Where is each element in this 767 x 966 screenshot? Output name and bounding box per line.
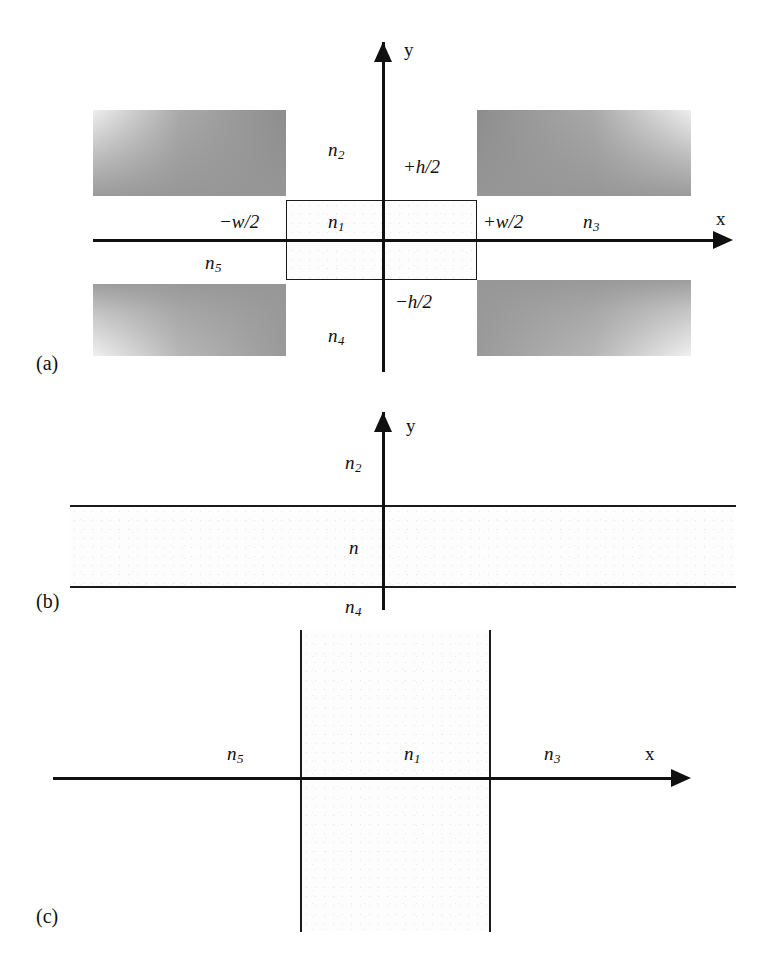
waveguide-core-region-b bbox=[70, 507, 735, 587]
label-n3-a-base: n bbox=[583, 211, 593, 232]
label-n-b: n bbox=[349, 538, 359, 557]
label-n3-a: n3 bbox=[583, 212, 599, 234]
label-plus-w-over-2: +w/2 bbox=[483, 212, 523, 231]
label-n2-b: n2 bbox=[345, 453, 361, 475]
panel-tag-c: (c) bbox=[36, 905, 58, 928]
label-n2-a: n2 bbox=[328, 140, 344, 162]
label-n1-c-base: n bbox=[404, 743, 414, 764]
label-n4-b-base: n bbox=[345, 596, 355, 617]
y-axis-line-b bbox=[382, 412, 385, 610]
label-n3-c: n3 bbox=[544, 744, 560, 766]
y-axis-arrowhead-b bbox=[374, 412, 392, 432]
y-axis-line-a bbox=[382, 42, 385, 372]
x-axis-arrowhead-c bbox=[671, 769, 691, 787]
label-n5-c: n5 bbox=[227, 744, 243, 766]
label-n1-a-sub: 1 bbox=[338, 219, 345, 234]
label-n4-a: n4 bbox=[328, 326, 344, 348]
label-n4-a-sub: 4 bbox=[338, 333, 345, 348]
label-n5-a: n5 bbox=[205, 253, 221, 275]
label-n5-a-base: n bbox=[205, 252, 215, 273]
y-axis-label-a: y bbox=[404, 40, 414, 59]
label-n1-a-base: n bbox=[328, 211, 338, 232]
shaded-region-bottom-left bbox=[93, 284, 286, 356]
slab-top-boundary-b bbox=[70, 505, 736, 507]
x-axis-label-c: x bbox=[645, 744, 655, 763]
label-n2-b-sub: 2 bbox=[355, 460, 362, 475]
slab-left-boundary-c bbox=[300, 630, 302, 932]
label-n5-c-base: n bbox=[227, 743, 237, 764]
label-n2-b-base: n bbox=[345, 452, 355, 473]
label-minus-h-over-2: −h/2 bbox=[395, 292, 432, 311]
figure-canvas: x y n2 n1 n3 n4 n5 +h/2 −h/2 −w/2 +w/2 (… bbox=[0, 0, 767, 966]
label-n3-a-sub: 3 bbox=[593, 219, 600, 234]
y-axis-arrowhead-a bbox=[374, 42, 392, 62]
label-n3-c-sub: 3 bbox=[554, 751, 561, 766]
label-n4-a-base: n bbox=[328, 325, 338, 346]
label-minus-w-over-2: −w/2 bbox=[219, 212, 259, 231]
label-n1-a: n1 bbox=[328, 212, 344, 234]
x-axis-line-a bbox=[93, 239, 715, 242]
slab-right-boundary-c bbox=[489, 630, 491, 932]
shaded-region-bottom-right bbox=[477, 280, 691, 356]
y-axis-label-b: y bbox=[406, 416, 416, 435]
shaded-region-top-left bbox=[93, 110, 286, 196]
label-n5-c-sub: 5 bbox=[237, 751, 244, 766]
label-n1-c: n1 bbox=[404, 744, 420, 766]
slab-bottom-boundary-b bbox=[70, 586, 736, 588]
label-n4-b: n4 bbox=[345, 597, 361, 619]
label-n2-a-base: n bbox=[328, 139, 338, 160]
label-n5-a-sub: 5 bbox=[215, 260, 222, 275]
x-axis-label-a: x bbox=[716, 209, 726, 228]
x-axis-arrowhead-a bbox=[713, 231, 733, 249]
waveguide-core-region-c bbox=[302, 631, 489, 931]
label-plus-h-over-2: +h/2 bbox=[403, 157, 440, 176]
panel-b: y n2 n n4 (b) bbox=[0, 390, 767, 620]
label-n4-b-sub: 4 bbox=[355, 604, 362, 619]
panel-a: x y n2 n1 n3 n4 n5 +h/2 −h/2 −w/2 +w/2 (… bbox=[0, 0, 767, 390]
label-n3-c-base: n bbox=[544, 743, 554, 764]
label-n2-a-sub: 2 bbox=[338, 147, 345, 162]
panel-tag-a: (a) bbox=[36, 352, 58, 375]
x-axis-line-c bbox=[53, 777, 673, 780]
panel-tag-b: (b) bbox=[36, 590, 59, 613]
label-n1-c-sub: 1 bbox=[414, 751, 421, 766]
shaded-region-top-right bbox=[477, 110, 691, 196]
panel-c: x n5 n1 n3 (c) bbox=[0, 620, 767, 966]
